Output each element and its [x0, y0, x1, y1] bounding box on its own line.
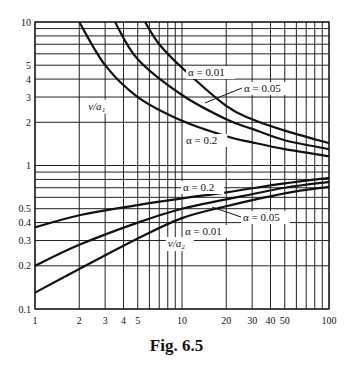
alpha-label: α = 0.05: [244, 82, 281, 94]
figure-caption: Fig. 6.5: [0, 336, 353, 356]
y-tick-label: 4: [26, 74, 31, 85]
group-label: ν/a₂: [168, 237, 185, 249]
x-tick-label: 2: [77, 315, 82, 326]
alpha-label: α = 0.01: [188, 66, 225, 78]
x-tick-label: 1: [33, 315, 38, 326]
y-tick-label: 3: [26, 92, 31, 103]
x-tick-label: 100: [322, 315, 337, 326]
leader-line: [205, 88, 242, 103]
y-tick-label: 5: [26, 60, 31, 71]
x-tick-label: 30: [247, 315, 257, 326]
chart-plot: 1234510203040501000.10.20.30.40.51234510…: [0, 0, 353, 369]
y-tick-label: 0.4: [19, 217, 32, 228]
y-tick-label: 0.3: [19, 235, 32, 246]
x-tick-label: 5: [135, 315, 140, 326]
x-tick-label: 3: [103, 315, 108, 326]
x-tick-label: 10: [177, 315, 187, 326]
y-tick-label: 1: [26, 160, 31, 171]
annotations: α = 0.01α = 0.05α = 0.2α = 0.2α = 0.05α …: [86, 66, 291, 251]
curve-upper: [115, 22, 329, 149]
curve-upper: [145, 22, 329, 143]
group-label: ν/a₁: [88, 100, 105, 112]
y-tick-label: 0.2: [19, 260, 32, 271]
x-tick-label: 40: [266, 315, 276, 326]
y-tick-label: 2: [26, 117, 31, 128]
alpha-label: α = 0.2: [183, 181, 214, 193]
y-tick-label: 0.5: [19, 203, 32, 214]
gridlines: [35, 22, 329, 309]
y-tick-label: 10: [21, 17, 31, 28]
y-tick-label: 0.1: [19, 304, 32, 315]
alpha-label: α = 0.2: [186, 134, 217, 146]
alpha-label: α = 0.05: [243, 211, 280, 223]
x-tick-label: 4: [121, 315, 126, 326]
alpha-label: α = 0.01: [185, 225, 222, 237]
x-tick-label: 20: [221, 315, 231, 326]
x-tick-label: 50: [280, 315, 290, 326]
